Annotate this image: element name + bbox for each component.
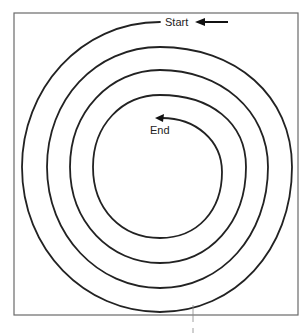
- end-arrowhead-icon: [155, 114, 164, 122]
- end-label: End: [150, 124, 170, 136]
- start-arrow-icon: [195, 18, 205, 26]
- spiral-path: [22, 22, 292, 312]
- spiral-diagram: Start End: [0, 0, 307, 335]
- start-label: Start: [165, 16, 188, 28]
